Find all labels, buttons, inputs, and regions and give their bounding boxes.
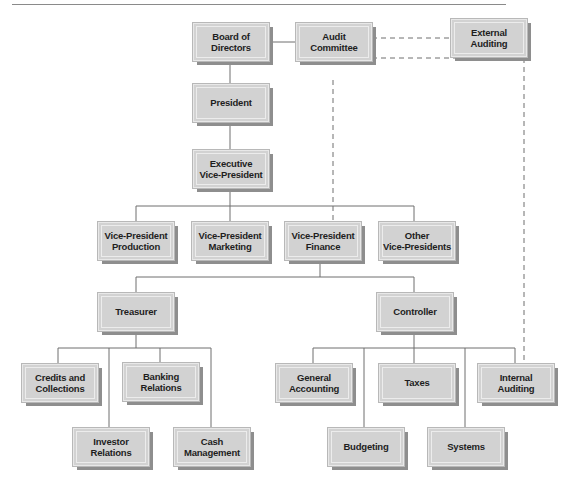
- node-label: Controller: [393, 306, 436, 318]
- node-label: Board of Directors: [211, 31, 251, 54]
- node-label: General Accounting: [289, 372, 339, 395]
- node-executive-vice-president: Executive Vice-President: [193, 150, 269, 188]
- node-label: President: [210, 97, 252, 109]
- node-cash-management: Cash Management: [174, 428, 250, 466]
- node-treasurer: Treasurer: [98, 293, 174, 331]
- node-vp-marketing: Vice-President Marketing: [192, 222, 268, 260]
- node-president: President: [193, 84, 269, 122]
- node-label: Cash Management: [184, 436, 240, 459]
- node-label: Vice-President Finance: [291, 230, 354, 253]
- node-systems: Systems: [428, 428, 504, 466]
- node-label: Investor Relations: [91, 436, 132, 459]
- node-label: External Auditing: [471, 27, 508, 50]
- node-banking-relations: Banking Relations: [123, 363, 199, 401]
- node-label: Budgeting: [343, 441, 388, 453]
- node-controller: Controller: [377, 293, 453, 331]
- node-label: Vice-President Production: [104, 230, 167, 253]
- node-label: Systems: [447, 441, 485, 453]
- node-board-of-directors: Board of Directors: [193, 23, 269, 61]
- node-label: Banking Relations: [141, 371, 182, 394]
- node-other-vice-presidents: Other Vice-Presidents: [379, 222, 455, 260]
- node-internal-auditing: Internal Auditing: [478, 364, 554, 402]
- node-label: Executive Vice-President: [199, 158, 262, 181]
- node-label: Internal Auditing: [498, 372, 535, 395]
- node-vp-production: Vice-President Production: [98, 222, 174, 260]
- node-external-auditing: External Auditing: [451, 19, 527, 57]
- node-investor-relations: Investor Relations: [73, 428, 149, 466]
- node-label: Taxes: [404, 377, 429, 389]
- node-label: Audit Committee: [310, 31, 357, 54]
- node-credits-and-collections: Credits and Collections: [22, 364, 98, 402]
- node-general-accounting: General Accounting: [276, 364, 352, 402]
- node-audit-committee: Audit Committee: [296, 23, 372, 61]
- node-vp-finance: Vice-President Finance: [285, 222, 361, 260]
- node-budgeting: Budgeting: [328, 428, 404, 466]
- node-label: Treasurer: [115, 306, 157, 318]
- node-label: Credits and Collections: [35, 372, 85, 395]
- node-label: Other Vice-Presidents: [383, 230, 451, 253]
- node-taxes: Taxes: [379, 364, 455, 402]
- node-label: Vice-President Marketing: [198, 230, 261, 253]
